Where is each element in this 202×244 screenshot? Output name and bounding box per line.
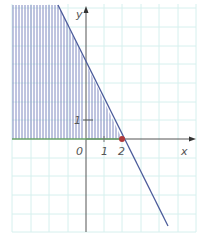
coordinate-graph: y x 0 1 2 1 bbox=[0, 0, 202, 244]
y-axis-arrow-icon bbox=[84, 6, 89, 13]
x-axis-label: x bbox=[180, 145, 188, 158]
y-axis bbox=[84, 6, 89, 232]
x-tick-label-2: 2 bbox=[118, 145, 125, 158]
y-axis-label: y bbox=[75, 8, 83, 21]
intercept-point bbox=[119, 136, 125, 142]
y-tick-label-1: 1 bbox=[74, 114, 81, 127]
origin-label: 0 bbox=[76, 145, 83, 158]
x-tick-label-1: 1 bbox=[101, 145, 108, 158]
x-axis-arrow-icon bbox=[189, 137, 196, 142]
